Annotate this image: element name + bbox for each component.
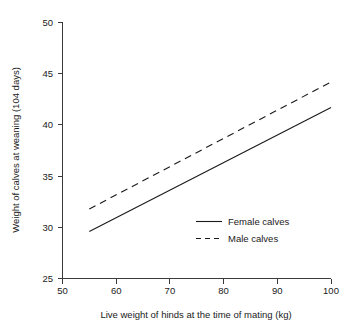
chart-legend: Female calves Male calves [196,216,289,244]
x-tick-label-70: 70 [165,285,176,296]
series-line-male-calves [89,82,331,209]
y-tick-label-35: 35 [42,171,53,182]
series-line-female-calves [89,108,331,232]
y-tick-label-40: 40 [42,119,53,130]
line-chart-canvas: 50 45 40 35 30 25 50 60 70 80 90 [0,0,350,330]
axes-group [63,22,332,279]
y-tick-label-25: 25 [42,273,53,284]
legend-label-male-calves: Male calves [228,233,278,244]
y-tick-label-50: 50 [42,17,53,28]
y-axis-title: Weight of calves at weaning (104 days) [10,67,21,233]
data-series-group [89,82,331,232]
y-axis-ticks: 50 45 40 35 30 25 [42,17,62,284]
x-axis-title: Live weight of hinds at the time of mati… [100,309,291,320]
y-tick-label-30: 30 [42,222,53,233]
x-axis-ticks: 50 60 70 80 90 100 [57,279,339,297]
x-tick-label-100: 100 [323,285,339,296]
chart-figure: 50 45 40 35 30 25 50 60 70 80 90 [0,0,350,330]
y-tick-label-45: 45 [42,68,53,79]
x-tick-label-60: 60 [111,285,122,296]
x-tick-label-90: 90 [272,285,283,296]
x-tick-label-80: 80 [218,285,229,296]
legend-label-female-calves: Female calves [228,216,289,227]
x-tick-label-50: 50 [57,285,68,296]
